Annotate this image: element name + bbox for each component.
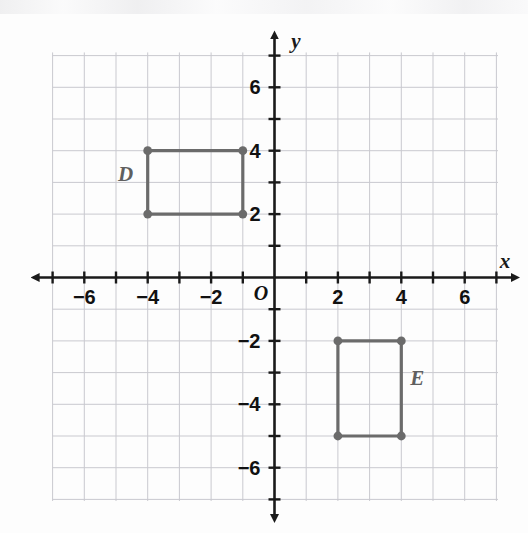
y-tick-label: −4: [238, 393, 262, 415]
y-tick-label: 2: [249, 203, 260, 225]
vertex-point: [143, 146, 152, 155]
x-axis-label: x: [499, 249, 511, 273]
y-tick-label: −6: [238, 457, 261, 479]
y-axis-label: y: [288, 29, 301, 53]
vertex-point: [397, 337, 406, 346]
y-tick-label: 6: [249, 76, 260, 98]
x-tick-label: −2: [200, 286, 223, 308]
x-tick-label: −6: [73, 286, 96, 308]
vertex-point: [238, 146, 247, 155]
x-tick-label: 4: [396, 286, 408, 308]
vertex-point: [334, 337, 343, 346]
shape-label-d: D: [117, 162, 133, 186]
shape-label-e: E: [409, 366, 424, 390]
y-tick-label: −2: [238, 330, 261, 352]
coordinate-plane-svg: −6−4−2246642−2−4−6 DE x y O: [0, 0, 528, 533]
vertex-point: [397, 432, 406, 441]
x-tick-label: 6: [459, 286, 470, 308]
x-tick-label: 2: [332, 286, 343, 308]
vertex-point: [238, 210, 247, 219]
origin-label: O: [254, 282, 268, 304]
vertex-point: [143, 210, 152, 219]
coordinate-plane-figure: −6−4−2246642−2−4−6 DE x y O: [0, 0, 528, 533]
shape-labels: DE: [117, 162, 424, 390]
y-tick-label: 4: [249, 140, 261, 162]
x-tick-label: −4: [136, 286, 160, 308]
vertex-point: [334, 432, 343, 441]
axis-lines: [39, 38, 512, 515]
